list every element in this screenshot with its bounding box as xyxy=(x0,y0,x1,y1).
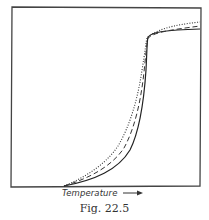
figure: Temperature Fig. 22.5 xyxy=(0,0,209,220)
solid-curve xyxy=(64,29,200,186)
dashed-curve xyxy=(64,26,200,186)
figure-caption: Fig. 22.5 xyxy=(0,202,209,215)
x-axis-label: Temperature xyxy=(62,188,118,198)
arrow-right-icon xyxy=(122,187,144,199)
chart-plot xyxy=(0,0,209,190)
dotted-curve xyxy=(64,22,200,186)
